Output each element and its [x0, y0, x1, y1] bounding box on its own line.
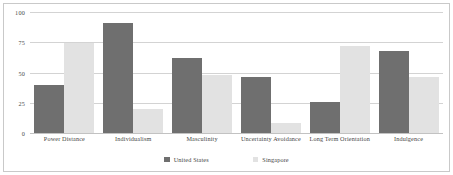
- legend-swatch-icon: [253, 157, 259, 163]
- legend-label: Singapore: [262, 156, 288, 163]
- bar[interactable]: [103, 23, 133, 133]
- plot-area: 1007550250: [30, 12, 443, 133]
- legend-item[interactable]: United States: [164, 156, 209, 163]
- bars-layer: [30, 12, 443, 133]
- bar[interactable]: [310, 102, 340, 133]
- bar[interactable]: [241, 77, 271, 133]
- x-axis-label: Individualism: [99, 135, 168, 142]
- x-axis-label: Uncertainty Avoidance: [236, 135, 305, 142]
- y-tick-label: 100: [15, 9, 25, 16]
- bar[interactable]: [64, 43, 94, 133]
- bar[interactable]: [172, 58, 202, 133]
- y-tick-label: 25: [18, 99, 25, 106]
- y-tick-label: 50: [18, 69, 25, 76]
- bar[interactable]: [340, 46, 370, 133]
- bar[interactable]: [379, 51, 409, 133]
- x-axis-label: Long Term Orientation: [305, 135, 374, 142]
- bar-group: [30, 12, 99, 133]
- gridline-0: [30, 133, 443, 134]
- y-tick-label: 75: [18, 39, 25, 46]
- bar[interactable]: [409, 77, 439, 133]
- bar-chart-figure: 1007550250 Power DistanceIndividualismMa…: [0, 0, 453, 175]
- y-tick-label: 0: [22, 130, 25, 137]
- x-axis-label: Power Distance: [30, 135, 99, 142]
- x-axis-label: Masculinity: [168, 135, 237, 142]
- x-axis-label: Indulgence: [374, 135, 443, 142]
- bar[interactable]: [271, 123, 301, 133]
- bar[interactable]: [34, 85, 64, 133]
- bar[interactable]: [202, 75, 232, 133]
- bar-group: [374, 12, 443, 133]
- legend-swatch-icon: [164, 157, 170, 163]
- bar-group: [168, 12, 237, 133]
- bar-group: [305, 12, 374, 133]
- bar[interactable]: [133, 109, 163, 133]
- bar-group: [236, 12, 305, 133]
- chart-legend: United StatesSingapore: [0, 156, 453, 163]
- x-axis-labels: Power DistanceIndividualismMasculinityUn…: [30, 135, 443, 142]
- bar-group: [99, 12, 168, 133]
- legend-label: United States: [174, 156, 209, 163]
- legend-item[interactable]: Singapore: [253, 156, 289, 163]
